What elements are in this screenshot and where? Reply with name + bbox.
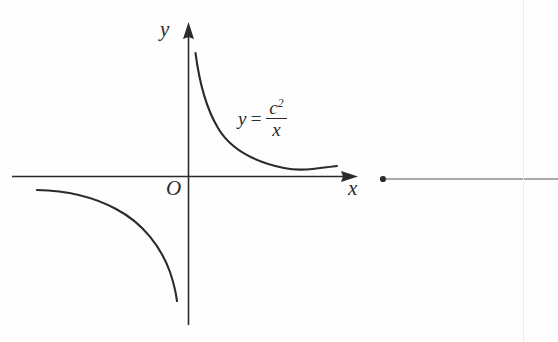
equation-equals-sign: = [249,109,262,128]
curve-branch-quadrant-three [37,190,177,301]
hyperbola-figure: y x O y = c2 x [0,0,558,342]
graph-canvas [0,0,558,342]
y-axis-label: y [160,19,169,40]
equation-annotation: y = c2 x [238,98,287,139]
y-axis-arrowhead [183,22,194,39]
equation-left-hand-side: y [238,109,246,128]
fraction-denominator: x [269,119,283,139]
origin-label: O [166,178,181,199]
numerator-base: c [269,97,277,118]
scan-artifact-line [523,0,524,342]
numerator-exponent: 2 [278,97,284,110]
x-axis-label: x [348,178,357,199]
equation-fraction: c2 x [266,98,286,139]
fraction-numerator: c2 [266,98,286,118]
